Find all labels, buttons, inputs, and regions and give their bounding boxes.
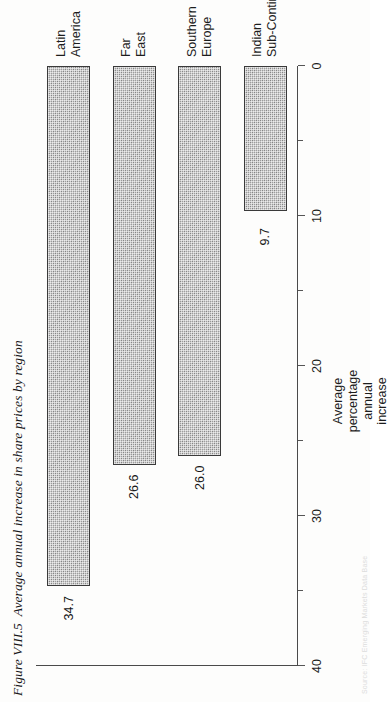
- axis-tick-major: [298, 515, 305, 516]
- axis-tick-major: [298, 215, 305, 216]
- bar: [244, 66, 287, 212]
- category-label: IndianSub-Continent: [251, 0, 281, 57]
- category-label-line: Sub-Continent: [265, 0, 280, 57]
- figure-number: Figure VIII.5: [10, 623, 25, 696]
- axis-tick-label: 0: [310, 63, 324, 70]
- source-note: Source: IFC Emerging Markets Data Base: [361, 556, 368, 694]
- category-label-line: Indian: [251, 0, 266, 57]
- axis-tick-label: 20: [310, 359, 324, 373]
- bar: [47, 66, 90, 587]
- figure-title-text: Average annual increase in share prices …: [10, 340, 25, 616]
- category-label: SouthernEurope: [185, 6, 215, 57]
- value-axis-title: Average percentage annual increase: [331, 286, 390, 516]
- axis-tick-minor: [298, 290, 303, 291]
- bar-value-label: 34.7: [62, 596, 76, 620]
- bar-value-label: 26.0: [193, 466, 207, 490]
- chart-plot-area: 010203040 9.726.026.634.7 IndianSub-Cont…: [36, 66, 298, 666]
- axis-title-line: Average: [331, 286, 346, 516]
- value-axis-line: [297, 66, 298, 666]
- category-label-line: Latin: [54, 11, 69, 57]
- category-label-line: Far: [120, 32, 135, 57]
- axis-tick-label: 40: [310, 659, 324, 673]
- axis-tick-label: 10: [310, 209, 324, 223]
- category-label: LatinAmerica: [54, 11, 84, 57]
- axis-title-line: annual: [361, 286, 376, 516]
- axis-tick-major: [298, 665, 305, 666]
- category-label-line: America: [69, 11, 84, 57]
- category-label-line: East: [134, 32, 149, 57]
- axis-title-line: percentage: [346, 286, 361, 516]
- axis-tick-label: 30: [310, 509, 324, 523]
- axis-tick-minor: [298, 440, 303, 441]
- bar-value-label: 26.6: [127, 475, 141, 499]
- axis-title-line: increase: [375, 286, 390, 516]
- axis-tick-major: [298, 65, 305, 66]
- category-label-line: Europe: [200, 6, 215, 57]
- axis-tick-minor: [298, 590, 303, 591]
- bar: [178, 66, 221, 456]
- category-axis-line: [36, 665, 298, 666]
- bar: [113, 66, 156, 465]
- axis-tick-minor: [298, 140, 303, 141]
- category-label: FarEast: [120, 32, 150, 57]
- figure-title: Figure VIII.5Average annual increase in …: [10, 340, 26, 696]
- axis-tick-major: [298, 365, 305, 366]
- category-label-line: Southern: [185, 6, 200, 57]
- bar-value-label: 9.7: [258, 228, 272, 245]
